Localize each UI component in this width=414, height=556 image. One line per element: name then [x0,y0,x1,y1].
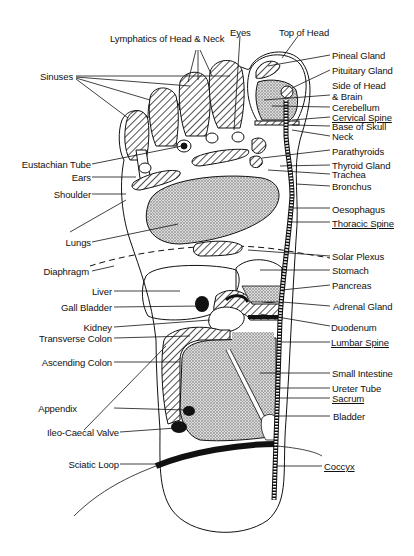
label-eyes: Eyes [230,27,251,38]
label-coccyx: Coccyx [324,461,355,472]
label-eustachian-tube: Eustachian Tube [22,159,91,170]
label-top-of-head: Top of Head [279,27,329,38]
label-gall-bladder: Gall Bladder [61,302,112,313]
label-and-brain: & Brain [332,91,362,102]
label-solar-plexus: Solar Plexus [332,251,384,262]
label-ileo-caecal-valve: Ileo-Caecal Valve [47,427,119,438]
label-adrenal-gland: Adrenal Gland [333,301,392,312]
sciatic-loop [156,444,276,466]
label-ascending-colon: Ascending Colon [42,357,112,368]
label-sacrum: Sacrum [332,393,364,404]
label-stomach: Stomach [332,265,369,276]
label-oesophagus: Oesophagus [332,204,385,215]
label-side-of-head: Side of Head [332,80,386,91]
label-small-intestine: Small Intestine [332,368,393,379]
label-sinuses: Sinuses [40,71,73,82]
label-liver: Liver [92,286,112,297]
label-neck: Neck [332,131,353,142]
label-appendix: Appendix [38,403,77,414]
label-diaphragm: Diaphragm [43,266,89,277]
label-kidney: Kidney [84,322,112,333]
label-pineal-gland: Pineal Gland [332,50,385,61]
label-lymphatics: Lymphatics of Head & Neck [110,33,224,44]
label-trachea: Trachea [332,169,366,180]
label-pancreas: Pancreas [332,280,371,291]
label-bladder: Bladder [333,411,365,422]
label-thoracic-spine: Thoracic Spine [332,218,394,229]
label-lungs: Lungs [66,237,91,248]
label-lumbar-spine: Lumbar Spine [331,337,389,348]
lungs-area [146,176,279,244]
label-transverse-colon: Transverse Colon [39,333,112,344]
label-ears: Ears [72,172,91,183]
label-shoulder: Shoulder [54,189,91,200]
label-bronchus: Bronchus [332,181,371,192]
label-pituitary-gland: Pituitary Gland [332,65,393,76]
label-duodenum: Duodenum [331,322,377,333]
label-parathyroids: Parathyroids [332,146,384,157]
label-sciatic-loop: Sciatic Loop [68,459,119,470]
